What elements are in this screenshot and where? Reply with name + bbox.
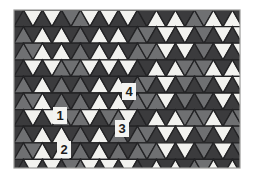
tile-triangle <box>252 93 254 110</box>
tile-triangle <box>242 60 253 77</box>
tile-triangle <box>252 27 254 44</box>
tile-triangle <box>252 110 254 127</box>
callout-label-4: 4 <box>122 83 136 100</box>
callout-label-1: 1 <box>53 107 67 124</box>
tile-triangle <box>242 43 253 60</box>
tile-triangle <box>252 76 254 93</box>
tile-triangle <box>242 27 253 44</box>
tile-triangle <box>242 126 253 143</box>
tile-triangle <box>242 143 253 160</box>
tile-triangle <box>242 93 253 110</box>
callout-label-2: 2 <box>57 141 71 158</box>
tile-triangle <box>252 10 254 27</box>
callout-label-3: 3 <box>115 120 129 137</box>
tile-triangle <box>242 110 253 127</box>
tiling-figure: 1 2 3 4 <box>0 0 253 180</box>
tile-triangle <box>252 60 254 77</box>
tile-triangle <box>252 143 254 160</box>
tile-triangle <box>252 159 254 176</box>
tile-triangle <box>252 126 254 143</box>
tile-triangle <box>242 159 253 176</box>
tile-triangle <box>242 10 253 27</box>
tile-triangle <box>242 76 253 93</box>
tile-triangle <box>252 43 254 60</box>
